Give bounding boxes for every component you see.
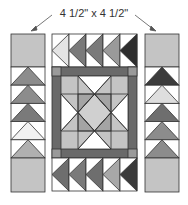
bottom-geese-row (52, 158, 137, 191)
arrow-right-icon (135, 15, 156, 31)
left-column (11, 34, 45, 192)
left-top-square (11, 34, 45, 67)
right-top-square (145, 34, 179, 67)
top-geese-row (52, 34, 137, 67)
right-column (145, 34, 179, 192)
right-bottom-square (145, 158, 179, 192)
center-block (52, 67, 137, 158)
quilt-diagram (0, 0, 188, 205)
arrow-left-icon (31, 15, 52, 31)
left-bottom-square (11, 158, 45, 192)
